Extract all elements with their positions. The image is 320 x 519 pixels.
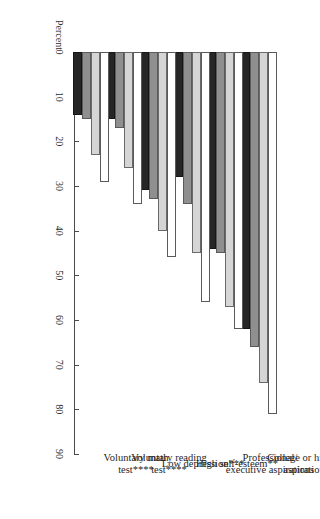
axis-tick-label: 10 bbox=[54, 92, 65, 102]
bar bbox=[100, 52, 109, 182]
bar bbox=[167, 52, 176, 257]
bar bbox=[149, 52, 158, 199]
bar bbox=[91, 52, 100, 155]
axis-tick-label: 30 bbox=[54, 181, 65, 191]
bar bbox=[183, 52, 192, 204]
bar bbox=[73, 52, 82, 115]
plot-area: 0102030405060708090 College or higher as… bbox=[74, 52, 276, 454]
bar-group bbox=[73, 52, 109, 182]
category-label: Voluntary math test**** bbox=[91, 452, 181, 476]
value-axis-title: Percent bbox=[54, 20, 65, 50]
bar bbox=[250, 52, 259, 347]
bar bbox=[235, 52, 244, 329]
bar bbox=[259, 52, 268, 383]
bar bbox=[217, 52, 226, 253]
bar bbox=[116, 52, 125, 128]
bar-chart-figure: 0102030405060708090 College or higher as… bbox=[0, 0, 290, 519]
bar-group bbox=[140, 52, 176, 257]
bar bbox=[82, 52, 91, 119]
axis-tick bbox=[74, 454, 79, 455]
bar bbox=[158, 52, 167, 231]
bar-group bbox=[241, 52, 277, 414]
bar-group bbox=[107, 52, 143, 204]
axis-tick-label: 20 bbox=[54, 136, 65, 146]
bar bbox=[134, 52, 143, 204]
bar-group bbox=[174, 52, 210, 302]
rotated-figure-wrapper: 0102030405060708090 College or higher as… bbox=[0, 0, 290, 519]
axis-tick bbox=[74, 320, 79, 321]
axis-tick-label: 70 bbox=[54, 360, 65, 370]
axis-tick-label: 50 bbox=[54, 270, 65, 280]
axis-tick bbox=[74, 231, 79, 232]
axis-tick-label: 60 bbox=[54, 315, 65, 325]
axis-tick-label: 0 bbox=[54, 50, 65, 55]
bar bbox=[125, 52, 134, 168]
bar bbox=[268, 52, 277, 414]
axis-tick-label: 40 bbox=[54, 226, 65, 236]
axis-tick-label: 90 bbox=[54, 449, 65, 459]
bar bbox=[201, 52, 210, 302]
axis-tick-label: 80 bbox=[54, 404, 65, 414]
bar bbox=[226, 52, 235, 307]
axis-tick bbox=[74, 409, 79, 410]
bar-group bbox=[208, 52, 244, 329]
bar bbox=[192, 52, 201, 253]
axis-tick bbox=[74, 275, 79, 276]
axis-tick bbox=[74, 186, 79, 187]
axis-tick bbox=[74, 365, 79, 366]
